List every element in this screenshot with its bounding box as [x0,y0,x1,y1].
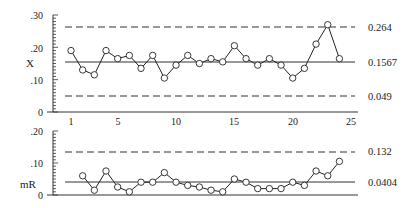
xtick-20: 20 [288,116,298,127]
data-point-marker [173,179,179,185]
data-point-marker [336,55,342,61]
data-point-marker [161,169,167,175]
data-point-marker [336,158,342,164]
data-point-marker [79,173,85,179]
x-series-line [71,25,339,78]
data-point-marker [290,179,296,185]
data-point-marker [114,55,120,61]
data-point-marker [126,189,132,195]
x-ytick-30: .30 [31,10,44,21]
data-point-marker [68,47,74,53]
data-point-marker [161,75,167,81]
data-point-marker [91,187,97,193]
data-point-marker [301,182,307,188]
data-point-marker [196,60,202,66]
mr-ucl-label: 0.132 [368,146,392,157]
xtick-5: 5 [116,116,121,127]
mr-ytick-10: .10 [31,158,44,169]
data-point-marker [243,55,249,61]
data-point-marker [208,187,214,193]
xtick-1: 1 [69,116,74,127]
data-point-marker [79,67,85,73]
data-point-marker [313,168,319,174]
mr-y-axis-minor-ticks [53,131,58,195]
data-point-marker [231,176,237,182]
data-point-marker [103,168,109,174]
xtick-10: 10 [171,116,181,127]
data-point-marker [103,47,109,53]
data-point-marker [278,62,284,68]
x-chart: .30 .20 .10 0 X 0.264 0.1567 0.049 1 5 1… [26,10,397,127]
mr-cl-label: 0.0404 [368,177,398,188]
data-point-marker [91,72,97,78]
data-point-marker [301,65,307,71]
mr-series-points [79,158,342,195]
data-point-marker [231,43,237,49]
data-point-marker [138,65,144,71]
mr-ylabel: mR [20,178,37,190]
data-point-marker [138,179,144,185]
data-point-marker [208,55,214,61]
data-point-marker [149,179,155,185]
xtick-25: 25 [346,116,356,127]
data-point-marker [255,185,261,191]
mr-chart: .20 .10 0 mR 0.132 0.0404 [20,126,398,201]
x-lcl-label: 0.049 [368,91,392,102]
mr-ytick-0: 0 [38,190,43,201]
data-point-marker [313,41,319,47]
data-point-marker [266,185,272,191]
data-point-marker [325,22,331,28]
x-ucl-label: 0.264 [368,22,392,33]
data-point-marker [149,52,155,58]
data-point-marker [173,62,179,68]
data-point-marker [114,184,120,190]
data-point-marker [220,189,226,195]
x-cl-label: 0.1567 [368,57,397,68]
x-series-points [68,22,343,82]
control-chart: .30 .20 .10 0 X 0.264 0.1567 0.049 1 5 1… [0,0,418,208]
x-ylabel: X [26,57,34,69]
data-point-marker [126,52,132,58]
data-point-marker [255,62,261,68]
data-point-marker [185,182,191,188]
x-ytick-0: 0 [38,107,43,118]
data-point-marker [220,59,226,65]
xtick-15: 15 [229,116,239,127]
x-y-axis-minor-ticks [53,15,58,112]
data-point-marker [185,52,191,58]
data-point-marker [290,75,296,81]
data-point-marker [278,185,284,191]
x-ytick-20: .20 [31,43,44,54]
data-point-marker [325,173,331,179]
data-point-marker [266,55,272,61]
mr-ytick-20: .20 [31,126,44,137]
x-ytick-10: .10 [31,75,44,86]
data-point-marker [196,184,202,190]
data-point-marker [243,179,249,185]
